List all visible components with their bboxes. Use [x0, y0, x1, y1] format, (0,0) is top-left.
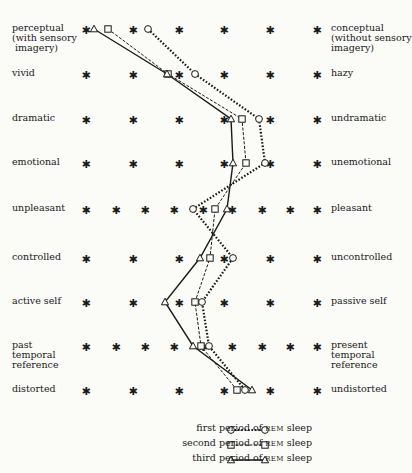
- scale-point-asterisk: ✱: [128, 385, 137, 398]
- scale-point-asterisk: ✱: [81, 297, 90, 310]
- scale-point-asterisk: ✱: [81, 385, 90, 398]
- scale-point-asterisk: ✱: [128, 24, 137, 37]
- scale-point-asterisk: ✱: [169, 204, 178, 217]
- scale-point-asterisk: ✱: [128, 253, 137, 266]
- scale-point-asterisk: ✱: [257, 341, 266, 354]
- scale-point-asterisk: ✱: [312, 341, 321, 354]
- scale-point-asterisk: ✱: [174, 385, 183, 398]
- scale-point-asterisk: ✱: [128, 114, 137, 127]
- scale-point-asterisk: ✱: [128, 69, 137, 82]
- triangle-marker: [229, 159, 236, 166]
- triangle-marker: [196, 254, 203, 261]
- square-marker: [207, 255, 213, 261]
- scale-point-asterisk: ✱: [81, 204, 90, 217]
- square-marker: [105, 26, 111, 32]
- scale-point-asterisk: ✱: [219, 69, 228, 82]
- circle-marker: [242, 387, 249, 394]
- scale-point-asterisk: ✱: [219, 24, 228, 37]
- scale-point-asterisk: ✱: [285, 204, 294, 217]
- triangle-marker: [90, 25, 97, 32]
- scale-point-asterisk: ✱: [265, 297, 274, 310]
- scale-point-asterisk: ✱: [219, 297, 228, 310]
- scale-point-asterisk: ✱: [219, 158, 228, 171]
- square-marker: [239, 116, 245, 122]
- circle-marker: [199, 299, 206, 306]
- scale-point-asterisk: ✱: [128, 158, 137, 171]
- square-marker: [234, 387, 240, 393]
- scale-point-asterisk: ✱: [81, 158, 90, 171]
- scale-point-asterisk: ✱: [265, 253, 274, 266]
- scale-point-asterisk: ✱: [219, 253, 228, 266]
- scale-point-asterisk: ✱: [169, 341, 178, 354]
- scale-point-asterisk: ✱: [312, 69, 321, 82]
- scale-point-asterisk: ✱: [111, 204, 120, 217]
- scale-point-asterisk: ✱: [174, 297, 183, 310]
- scale-point-asterisk: ✱: [81, 69, 90, 82]
- scale-point-asterisk: ✱: [265, 385, 274, 398]
- circle-marker: [206, 343, 213, 350]
- circle-marker: [192, 71, 199, 78]
- scale-point-asterisk: ✱: [81, 114, 90, 127]
- scale-point-asterisk: ✱: [312, 24, 321, 37]
- scale-point-asterisk: ✱: [285, 341, 294, 354]
- legend: first period of REM sleep second period …: [100, 422, 380, 467]
- scale-point-asterisk: ✱: [265, 69, 274, 82]
- legend-item-second: second period of REM sleep: [100, 437, 380, 452]
- circle-marker: [230, 255, 237, 262]
- scale-point-asterisk: ✱: [174, 253, 183, 266]
- scale-point-asterisk: ✱: [140, 341, 149, 354]
- scale-point-asterisk: ✱: [219, 385, 228, 398]
- scale-point-asterisk: ✱: [140, 204, 149, 217]
- legend-item-first: first period of REM sleep: [100, 422, 380, 437]
- circle-marker: [190, 206, 197, 213]
- scale-point-asterisk: ✱: [312, 158, 321, 171]
- scale-point-asterisk: ✱: [312, 204, 321, 217]
- scale-point-asterisk: ✱: [265, 114, 274, 127]
- scale-point-asterisk: ✱: [111, 341, 120, 354]
- scale-point-asterisk: ✱: [128, 297, 137, 310]
- legend-item-third: third period of REM sleep: [100, 452, 380, 467]
- scale-point-asterisk: ✱: [265, 24, 274, 37]
- circle-marker: [262, 160, 269, 167]
- circle-marker: [256, 116, 263, 123]
- scale-point-asterisk: ✱: [257, 204, 266, 217]
- scale-point-asterisk: ✱: [312, 114, 321, 127]
- scale-point-asterisk: ✱: [174, 114, 183, 127]
- scale-point-asterisk: ✱: [312, 253, 321, 266]
- square-marker: [243, 160, 249, 166]
- scale-point-asterisk: ✱: [174, 24, 183, 37]
- scale-point-asterisk: ✱: [227, 341, 236, 354]
- scale-point-asterisk: ✱: [81, 24, 90, 37]
- square-marker: [198, 343, 204, 349]
- square-marker: [192, 299, 198, 305]
- scale-point-asterisk: ✱: [312, 385, 321, 398]
- scale-point-asterisk: ✱: [174, 158, 183, 171]
- triangle-marker: [248, 386, 255, 393]
- circle-marker: [145, 26, 152, 33]
- scale-point-asterisk: ✱: [312, 297, 321, 310]
- square-marker: [212, 206, 218, 212]
- scale-point-asterisk: ✱: [81, 253, 90, 266]
- scale-point-asterisk: ✱: [81, 341, 90, 354]
